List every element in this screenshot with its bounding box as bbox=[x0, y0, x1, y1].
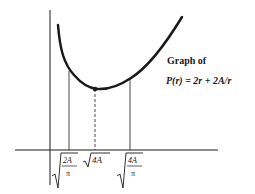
svg-text:π: π bbox=[66, 169, 70, 178]
function-label: P(r) = 2r + 2A/r bbox=[166, 75, 231, 86]
x-label-sqrt-4a-over-pi: 4A π bbox=[117, 153, 143, 188]
graph-canvas: 2A π 4A 4A π bbox=[0, 0, 255, 194]
svg-text:2A: 2A bbox=[63, 156, 72, 165]
x-label-sqrt-4a: 4A bbox=[83, 153, 110, 167]
curve-p-of-r bbox=[58, 17, 182, 89]
x-label-sqrt-2a-over-pi: 2A π bbox=[52, 153, 78, 188]
minimum-point bbox=[93, 87, 98, 92]
graph-title: Graph of bbox=[167, 55, 206, 66]
svg-text:π: π bbox=[131, 169, 135, 178]
svg-text:4A: 4A bbox=[128, 156, 137, 165]
svg-text:4A: 4A bbox=[92, 155, 103, 165]
